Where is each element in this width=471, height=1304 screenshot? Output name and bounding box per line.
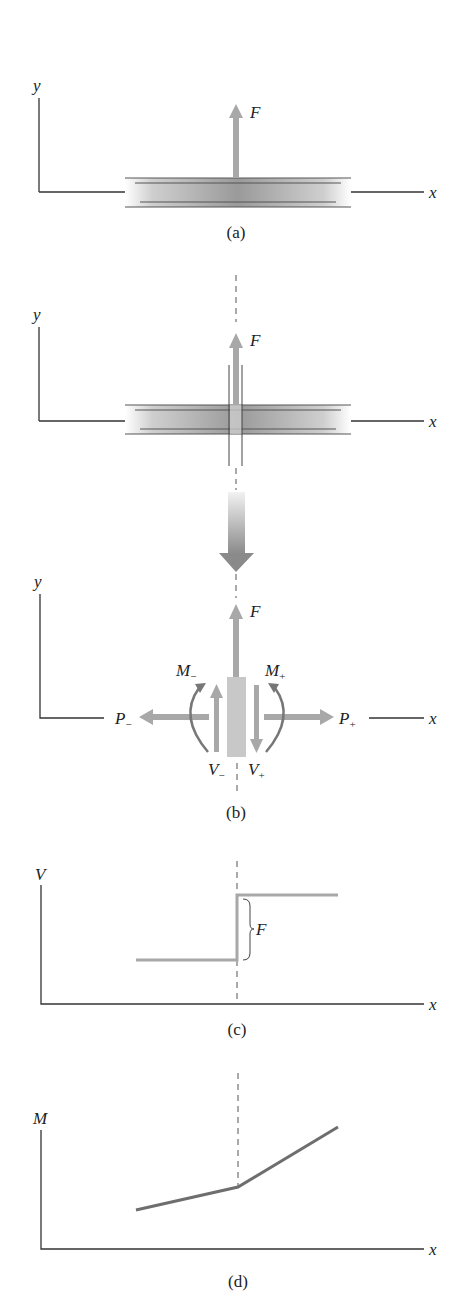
panel-a: y x F (a) [31, 76, 437, 242]
x-axis-label: x [428, 995, 437, 1014]
v-plus-arrow-icon [250, 685, 263, 753]
beam [125, 178, 351, 207]
panel-b-upper: y x F [31, 275, 437, 480]
x-axis-label: x [428, 183, 437, 202]
v-minus-label: V− [208, 760, 225, 781]
x-axis-label: x [428, 412, 437, 431]
p-plus-arrow-icon [264, 709, 334, 725]
m-minus-label: M− [175, 661, 196, 682]
force-label: F [249, 331, 261, 350]
jump-brace [243, 899, 254, 960]
shear-curve [136, 895, 338, 960]
moment-curve [136, 1127, 338, 1210]
transition-arrow-down-icon [219, 480, 254, 598]
v-minus-arrow-icon [210, 684, 223, 752]
y-axis-label: y [32, 572, 42, 591]
force-arrow-up-icon [229, 604, 243, 677]
y-axis-label: y [31, 76, 41, 95]
p-minus-arrow-icon [139, 709, 209, 725]
diagram-canvas: y x F (a) y x [0, 0, 471, 1304]
p-minus-label: P− [114, 709, 132, 730]
element-block [227, 677, 246, 757]
beam [125, 405, 351, 434]
jump-label: F [255, 920, 267, 939]
axes [40, 594, 104, 718]
caption-c: (c) [228, 1020, 247, 1039]
v-plus-label: V+ [248, 760, 265, 781]
caption-a: (a) [227, 223, 246, 242]
panel-c-shear-diagram: V x F (c) [35, 861, 437, 1039]
y-axis-label: y [31, 305, 41, 324]
y-axis-label: M [32, 1109, 48, 1128]
force-arrow-up-icon [229, 333, 243, 405]
y-axis-label: V [35, 865, 48, 884]
axes [41, 885, 424, 1004]
x-axis-label: x [428, 709, 437, 728]
force-label: F [249, 602, 261, 621]
caption-d: (d) [228, 1272, 248, 1291]
p-plus-label: P+ [338, 709, 356, 730]
panel-d-moment-diagram: M x (d) [32, 1073, 437, 1291]
caption-b: (b) [226, 803, 246, 822]
panel-b-lower: y x F P− P+ V− [32, 572, 437, 822]
force-arrow-up-icon [229, 104, 243, 178]
x-axis-label: x [428, 1240, 437, 1259]
force-label: F [249, 103, 261, 122]
m-plus-label: M+ [264, 661, 285, 682]
